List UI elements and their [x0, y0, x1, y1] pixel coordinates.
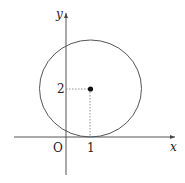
x-axis-label: x: [170, 140, 177, 154]
y-axis-label: y: [55, 7, 63, 21]
origin-label: O: [53, 141, 63, 155]
coordinate-diagram: y x O 1 2: [0, 0, 185, 183]
y-tick-label: 2: [57, 82, 65, 96]
center-point: [88, 86, 93, 91]
x-tick-label: 1: [87, 141, 95, 155]
